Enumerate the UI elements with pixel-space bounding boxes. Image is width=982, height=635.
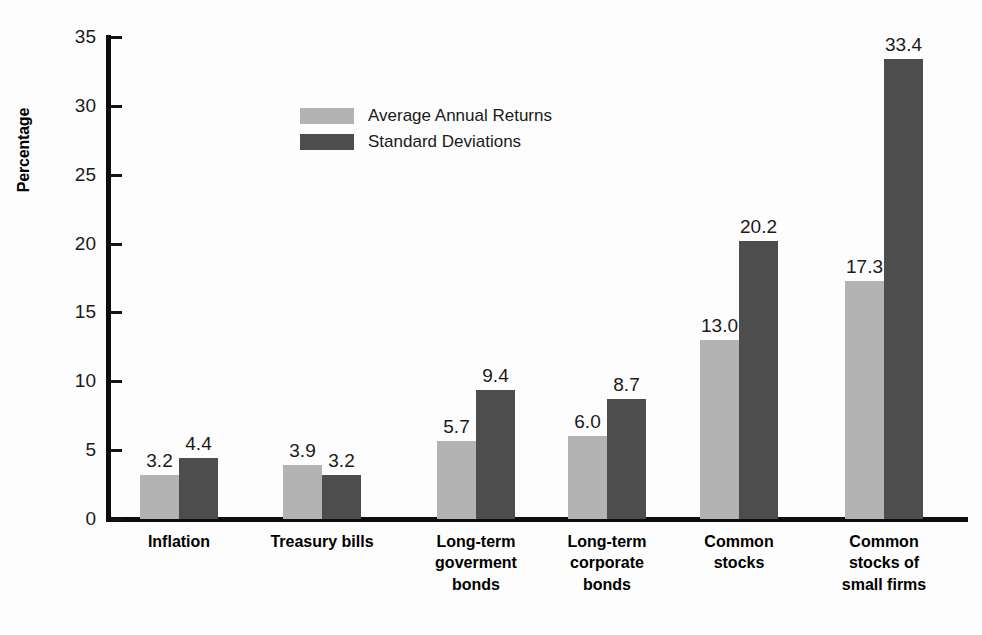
bar-group: 3.93.2 bbox=[283, 37, 361, 519]
y-tick-label: 5 bbox=[54, 439, 96, 461]
bar-value-label: 9.4 bbox=[466, 365, 526, 387]
x-category-label-line: Inflation bbox=[104, 531, 254, 552]
bar-standard-deviation bbox=[739, 241, 778, 519]
x-category-label-line: Long-term bbox=[401, 531, 551, 552]
x-category-label: Commonstocks bbox=[664, 531, 814, 574]
plot-area: 3.24.43.93.25.79.46.08.713.020.217.333.4 bbox=[111, 37, 968, 519]
x-category-label: Treasury bills bbox=[247, 531, 397, 552]
bar-value-label: 33.4 bbox=[874, 34, 934, 56]
y-tick-label: 35 bbox=[54, 26, 96, 48]
x-category-label-line: goverment bbox=[401, 552, 551, 573]
x-category-label: Long-termcorporatebonds bbox=[532, 531, 682, 595]
x-category-label-line: stocks of bbox=[809, 552, 959, 573]
x-category-label-line: bonds bbox=[401, 574, 551, 595]
bar-average-annual-returns bbox=[283, 465, 322, 519]
x-category-label: Inflation bbox=[104, 531, 254, 552]
y-axis-title-text: Percentage bbox=[15, 108, 33, 192]
y-tick-label: 15 bbox=[54, 301, 96, 323]
bar-standard-deviation bbox=[476, 390, 515, 519]
bar-chart-figure: Percentage 35302520151050 Average Annual… bbox=[0, 0, 982, 635]
x-category-label-line: Common bbox=[664, 531, 814, 552]
bar-group: 6.08.7 bbox=[568, 37, 646, 519]
bar-group: 3.24.4 bbox=[140, 37, 218, 519]
bar-average-annual-returns bbox=[140, 475, 179, 519]
x-category-label-line: corporate bbox=[532, 552, 682, 573]
bar-average-annual-returns bbox=[568, 436, 607, 519]
bar-average-annual-returns bbox=[700, 340, 739, 519]
bar-average-annual-returns bbox=[845, 281, 884, 519]
bar-group: 17.333.4 bbox=[845, 37, 923, 519]
y-tick-label: 10 bbox=[54, 370, 96, 392]
bar-standard-deviation bbox=[884, 59, 923, 519]
y-tick-label: 25 bbox=[54, 164, 96, 186]
y-axis-title: Percentage bbox=[0, 0, 48, 300]
bar-value-label: 8.7 bbox=[597, 374, 657, 396]
bar-standard-deviation bbox=[322, 475, 361, 519]
y-tick-label: 0 bbox=[54, 508, 96, 530]
y-tick-label: 20 bbox=[54, 233, 96, 255]
x-category-label-line: Common bbox=[809, 531, 959, 552]
x-category-label-line: Long-term bbox=[532, 531, 682, 552]
bar-value-label: 3.2 bbox=[312, 450, 372, 472]
bar-group: 5.79.4 bbox=[437, 37, 515, 519]
bar-group: 13.020.2 bbox=[700, 37, 778, 519]
bar-standard-deviation bbox=[607, 399, 646, 519]
bar-standard-deviation bbox=[179, 458, 218, 519]
bar-value-label: 4.4 bbox=[169, 433, 229, 455]
x-category-label-line: bonds bbox=[532, 574, 682, 595]
x-category-label: Long-termgovermentbonds bbox=[401, 531, 551, 595]
x-category-label-line: Treasury bills bbox=[247, 531, 397, 552]
x-category-label-line: stocks bbox=[664, 552, 814, 573]
bar-average-annual-returns bbox=[437, 441, 476, 519]
bar-value-label: 20.2 bbox=[729, 216, 789, 238]
x-category-label-line: small firms bbox=[809, 574, 959, 595]
y-tick-label: 30 bbox=[54, 95, 96, 117]
x-category-label: Commonstocks ofsmall firms bbox=[809, 531, 959, 595]
